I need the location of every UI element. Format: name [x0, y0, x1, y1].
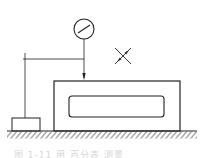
- surface-plate: [7, 131, 197, 139]
- probe-arrow-icon: [82, 73, 85, 80]
- workpiece: [54, 81, 180, 131]
- base-block: [12, 118, 40, 131]
- dial-indicator: [74, 19, 94, 80]
- cross-mark-icon: [115, 48, 131, 64]
- measurement-diagram: [0, 0, 207, 158]
- workpiece-slot: [69, 96, 164, 117]
- figure-caption: 图 1-11 用 百分表 测量: [14, 148, 194, 158]
